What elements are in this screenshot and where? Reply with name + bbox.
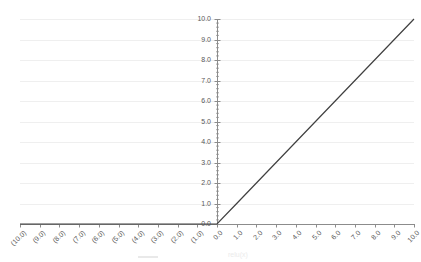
y-tick-label: 8.0: [181, 56, 211, 64]
legend-series-label: relu(x): [228, 251, 248, 259]
y-tick-label: 10.0: [181, 15, 211, 23]
chart-screenshot: 0.01.02.03.04.05.06.07.08.09.010.0 (10.0…: [0, 0, 421, 262]
legend: relu(x): [0, 248, 421, 262]
y-tick-label: 1.0: [181, 200, 211, 208]
y-tick-label: 5.0: [181, 118, 211, 126]
y-tick-label: 3.0: [181, 159, 211, 167]
axes-and-ticks: [20, 19, 415, 228]
legend-line-marker: [138, 256, 158, 258]
y-tick-label: 9.0: [181, 36, 211, 44]
y-tick-label: 7.0: [181, 77, 211, 85]
y-tick-label: 6.0: [181, 97, 211, 105]
y-tick-label: 0.0: [181, 220, 211, 228]
y-tick-label: 2.0: [181, 179, 211, 187]
y-tick-label: 4.0: [181, 138, 211, 146]
